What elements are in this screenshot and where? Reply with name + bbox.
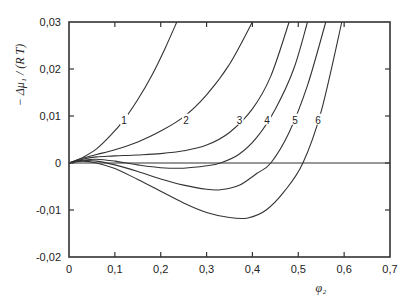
curve-2 (69, 22, 252, 163)
x-tick-label: 0,4 (245, 263, 260, 275)
y-tick-label: -0,02 (36, 251, 61, 263)
y-tick-label: 0,03 (40, 16, 61, 28)
x-axis-title: φ₂ (316, 281, 327, 295)
y-tick-label: 0,01 (40, 110, 61, 122)
curve-label-4: 4 (264, 115, 270, 126)
x-tick-label: 0,2 (153, 263, 168, 275)
x-tick-label: 0,1 (107, 263, 122, 275)
curve-label-2: 2 (183, 115, 189, 126)
curve-label-3: 3 (237, 115, 243, 126)
x-tick-label: 0,5 (291, 263, 306, 275)
line-chart: 123456 00,10,20,30,40,50,60,7 -0,02-0,01… (0, 0, 414, 302)
curve-3 (69, 22, 289, 163)
chart-container: 123456 00,10,20,30,40,50,60,7 -0,02-0,01… (0, 0, 414, 302)
y-axis-ticks: -0,02-0,0100,010,020,03 (36, 16, 390, 263)
y-axis-title: − Δμ₁ / (R T) (13, 44, 27, 106)
plot-frame (69, 22, 390, 257)
y-tick-label: 0,02 (40, 63, 61, 75)
x-tick-label: 0 (66, 263, 72, 275)
curve-label-5: 5 (292, 115, 298, 126)
curves-group (69, 22, 342, 219)
y-tick-label: 0 (55, 157, 61, 169)
curve-5 (69, 22, 326, 190)
y-tick-label: -0,01 (36, 204, 61, 216)
x-tick-label: 0,7 (382, 263, 397, 275)
curve-1 (69, 22, 177, 163)
curve-4 (69, 22, 308, 168)
x-tick-label: 0,6 (336, 263, 351, 275)
x-tick-label: 0,3 (199, 263, 214, 275)
curve-label-1: 1 (121, 115, 127, 126)
curve-label-6: 6 (315, 115, 321, 126)
curve-labels-group: 123456 (120, 114, 322, 126)
